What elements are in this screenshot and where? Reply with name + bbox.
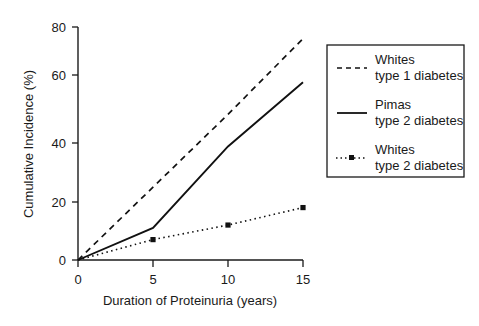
legend-swatch-square-marker — [349, 155, 354, 160]
y-tick-label-40: 40 — [52, 136, 66, 151]
x-tick-label-15: 15 — [296, 272, 310, 287]
x-tick-label-0: 0 — [74, 272, 81, 287]
y-tick-label-80: 80 — [52, 20, 66, 35]
series-layer — [78, 39, 306, 260]
series-line-1 — [78, 82, 303, 260]
y-tick-label-20: 20 — [52, 195, 66, 210]
x-tick-label-5: 5 — [149, 272, 156, 287]
legend-entry-0-line2: type 1 diabetes — [375, 68, 464, 83]
data-point-marker — [150, 237, 155, 242]
legend-entry-2-line2: type 2 diabetes — [375, 158, 464, 173]
data-point-marker — [225, 222, 230, 227]
data-point-marker — [300, 205, 305, 210]
legend-entry-0-line1: Whites — [375, 52, 415, 67]
x-axis-title: Duration of Proteinuria (years) — [103, 293, 277, 308]
y-tick-label-60: 60 — [52, 68, 66, 83]
legend-entry-2-line1: Whites — [375, 142, 415, 157]
legend-entry-1-line1: Pimas — [375, 97, 412, 112]
x-tick-label-10: 10 — [221, 272, 235, 287]
series-line-0 — [78, 39, 303, 260]
y-axis-title: Cumulative Incidence (%) — [21, 70, 36, 218]
y-tick-label-0: 0 — [59, 253, 66, 268]
chart-figure: Cumulative Incidence (%) 80 60 40 20 0 0… — [0, 0, 479, 326]
legend-entry-1-line2: type 2 diabetes — [375, 113, 464, 128]
chart-canvas: Cumulative Incidence (%) 80 60 40 20 0 0… — [0, 0, 479, 326]
series-line-2 — [78, 208, 303, 260]
